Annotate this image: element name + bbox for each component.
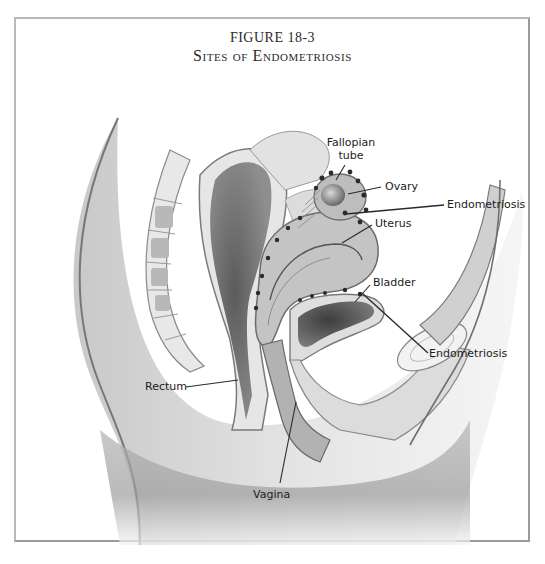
label-ovary: Ovary [385, 180, 418, 193]
label-vagina: Vagina [253, 488, 290, 501]
label-fallopian-tube-line1: Fallopian [325, 136, 377, 149]
label-uterus: Uterus [375, 217, 411, 230]
label-fallopian-tube-line2: tube [325, 149, 377, 162]
sacrum [146, 150, 204, 372]
leader-rectum [186, 380, 238, 387]
label-rectum: Rectum [145, 380, 187, 393]
label-fallopian-tube: Fallopian tube [325, 136, 377, 162]
label-endometriosis-upper: Endometriosis [447, 198, 525, 211]
label-endometriosis-lower: Endometriosis [429, 347, 507, 360]
pelvic-anatomy-illustration [0, 0, 545, 564]
label-bladder: Bladder [373, 276, 416, 289]
